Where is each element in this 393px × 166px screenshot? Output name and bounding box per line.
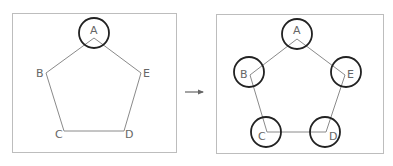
right-panel: A B E C D	[217, 15, 384, 154]
label-E: E	[347, 68, 354, 81]
label-E: E	[143, 67, 150, 80]
label-D: D	[125, 128, 133, 141]
label-D: D	[329, 130, 337, 143]
pentagon-circle-diagram: A B E C D A B E C D	[0, 0, 393, 166]
arrow-icon	[185, 90, 204, 95]
label-A: A	[90, 24, 98, 37]
label-A: A	[293, 24, 301, 37]
label-C: C	[258, 130, 266, 143]
label-B: B	[36, 67, 44, 80]
label-B: B	[240, 68, 248, 81]
left-panel: A B E C D	[13, 14, 177, 153]
label-C: C	[55, 128, 63, 141]
